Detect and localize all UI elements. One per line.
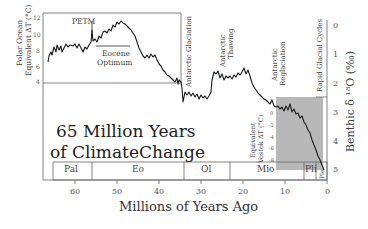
left-axis-label-line2: Equivalent ΔT (°C): [24, 5, 33, 76]
petm-label: PETM: [72, 17, 95, 26]
inset-axis-label-line1: Equivalent: [249, 123, 257, 158]
eocene-label-2: Optimum: [97, 58, 132, 67]
right-axis-label: Benthic δ ¹⁸O (‰): [344, 51, 357, 152]
glaciation-label: Antarctic Glaciation: [185, 16, 193, 87]
thawing-label-2: Thawing: [227, 28, 235, 59]
left-axis-label-line1: Polar Ocean: [15, 20, 24, 66]
chart-canvas: [0, 0, 368, 229]
inset-axis-label-line2: Vostok ΔT (°C): [257, 115, 265, 163]
epoch-oligocene: Ol: [201, 164, 211, 174]
epoch-pleistocene: Ple: [318, 169, 325, 179]
thawing-label-1: Antarctic: [219, 34, 227, 67]
chart-title-line2: of ClimateChange: [50, 142, 205, 162]
epoch-pliocene: Pli: [305, 164, 317, 174]
rapid-glacial-label: Rapid Glacial Cycles: [316, 19, 324, 92]
reglaciation-label-1: Antarctic: [271, 48, 279, 81]
x-axis-label: Millions of Years Ago: [119, 199, 258, 214]
eocene-label-1: Eocene: [102, 49, 130, 58]
epoch-eocene: Eo: [132, 164, 144, 174]
reglaciation-label-2: Reglaciation: [279, 42, 287, 86]
epoch-miocene: Mio: [257, 164, 275, 174]
chart-title-line1: 65 Million Years: [56, 121, 196, 141]
epoch-paleocene: Pal: [64, 164, 78, 174]
